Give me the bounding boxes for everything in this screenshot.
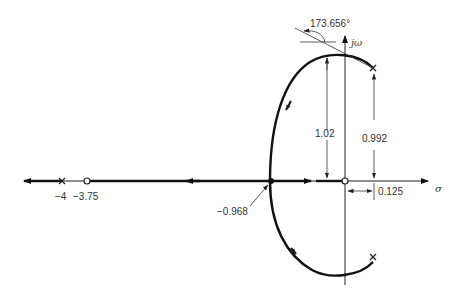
- pole-offset-label: 0.125: [378, 186, 403, 197]
- locus-upper-arrow: [286, 101, 291, 110]
- breakin-leader: [250, 185, 268, 206]
- max-height-label: 1.02: [315, 128, 335, 139]
- breakin-point: [268, 178, 274, 184]
- pole-marker: [370, 254, 376, 260]
- locus-upper-branch: [270, 55, 373, 181]
- imaginary-axis-label: jω: [349, 37, 362, 48]
- zero-marker: [342, 178, 348, 184]
- pole-height-label: 0.992: [362, 133, 387, 144]
- root-locus-diagram: σ jω −4 −3.75 −0.968 1.02 0.992: [0, 0, 456, 296]
- departure-tangent: [295, 28, 373, 68]
- breakin-label: −0.968: [217, 206, 248, 217]
- pole-label: −4: [55, 191, 67, 202]
- real-axis-label: σ: [435, 183, 443, 194]
- locus-lower-branch: [270, 181, 373, 276]
- departure-angle-label: 173.656°: [310, 18, 350, 29]
- departure-angle-arc: [304, 31, 325, 42]
- zero-marker: [84, 178, 90, 184]
- zero-label: −3.75: [73, 191, 99, 202]
